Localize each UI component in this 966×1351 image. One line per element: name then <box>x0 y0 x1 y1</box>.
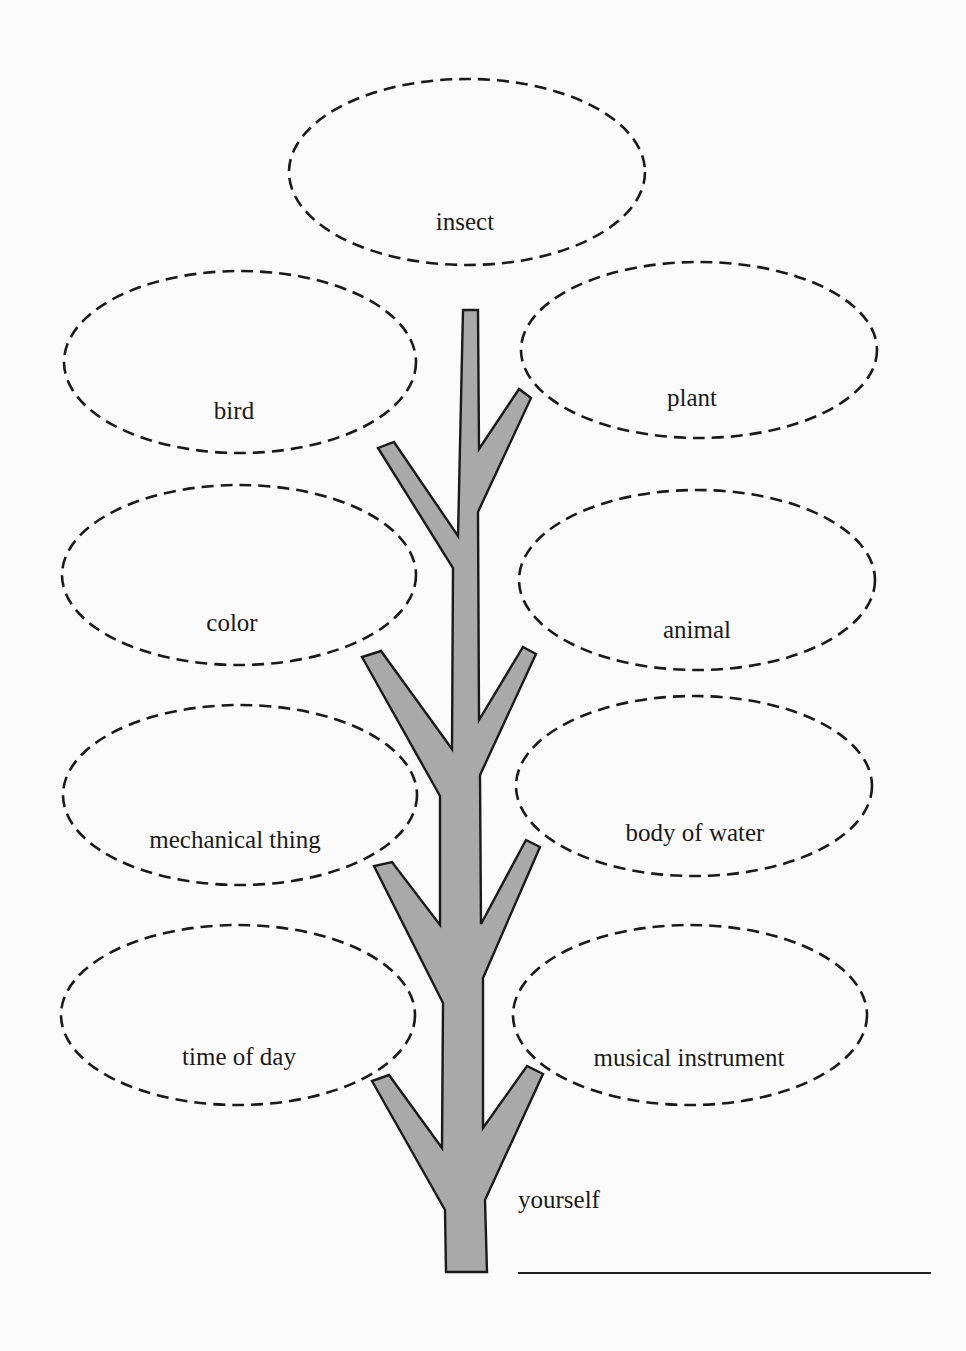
label-plant: plant <box>667 384 717 412</box>
bubble-body-of-water <box>516 696 872 876</box>
bubble-color <box>62 485 416 665</box>
bubble-mechanical-thing <box>63 705 417 885</box>
label-animal: animal <box>663 616 731 644</box>
bubble-time-of-day <box>61 925 415 1105</box>
bubble-musical-instrument <box>513 925 867 1105</box>
label-insect: insect <box>436 208 494 236</box>
label-mechanical-thing: mechanical thing <box>149 826 320 854</box>
label-body-of-water: body of water <box>626 819 765 847</box>
label-yourself: yourself <box>518 1186 600 1214</box>
label-bird: bird <box>214 397 254 425</box>
label-musical-instrument: musical instrument <box>594 1044 785 1072</box>
tree-diagram <box>0 0 966 1351</box>
bubble-insect <box>289 79 645 265</box>
label-time-of-day: time of day <box>182 1043 296 1071</box>
label-color: color <box>206 609 257 637</box>
bubble-bird <box>64 271 416 453</box>
answer-line[interactable] <box>518 1272 931 1274</box>
